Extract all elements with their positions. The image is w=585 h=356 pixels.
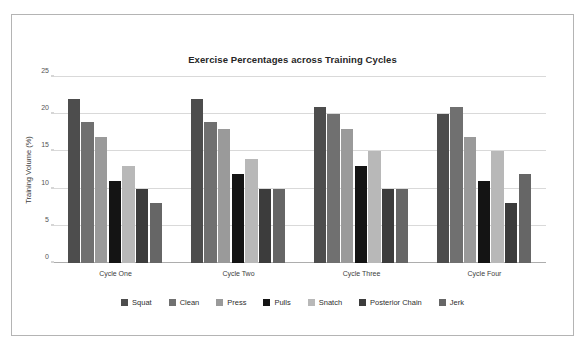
- legend-item[interactable]: Pulls: [263, 298, 290, 307]
- bar: [437, 114, 449, 263]
- legend-swatch: [216, 299, 223, 306]
- y-axis-tick-mark: [51, 150, 54, 151]
- legend-label: Clean: [180, 298, 200, 307]
- bar: [122, 166, 134, 263]
- y-axis-tick-label: 0: [45, 253, 49, 260]
- bar: [191, 99, 203, 263]
- bar: [450, 107, 462, 263]
- y-axis-tick-label: 20: [41, 104, 49, 111]
- bar-group: Cycle Four: [437, 77, 532, 263]
- bar: [382, 189, 394, 263]
- bar: [341, 129, 353, 263]
- legend-swatch: [359, 299, 366, 306]
- bar: [327, 114, 339, 263]
- bar: [150, 203, 162, 263]
- chart-legend: SquatCleanPressPullsSnatchPosterior Chai…: [12, 298, 573, 307]
- legend-label: Squat: [132, 298, 152, 307]
- bar: [491, 151, 503, 263]
- x-axis-group-label: Cycle Four: [468, 270, 502, 277]
- legend-item[interactable]: Clean: [169, 298, 200, 307]
- bar: [259, 189, 271, 263]
- legend-item[interactable]: Jerk: [439, 298, 464, 307]
- bar: [273, 189, 285, 263]
- legend-swatch: [169, 299, 176, 306]
- bar: [505, 203, 517, 263]
- bar: [95, 137, 107, 263]
- y-axis-tick-mark: [51, 187, 54, 188]
- legend-label: Jerk: [450, 298, 464, 307]
- bar: [245, 159, 257, 263]
- y-axis-tick-label: 25: [41, 67, 49, 74]
- bar: [355, 166, 367, 263]
- legend-swatch: [121, 299, 128, 306]
- y-axis-label: Training Volume (%): [24, 136, 33, 204]
- x-axis-group-label: Cycle Two: [222, 270, 254, 277]
- bar: [81, 122, 93, 263]
- bar: [232, 174, 244, 263]
- legend-label: Press: [227, 298, 246, 307]
- bar: [68, 99, 80, 263]
- legend-label: Snatch: [319, 298, 342, 307]
- y-axis-tick-mark: [51, 224, 54, 225]
- legend-item[interactable]: Snatch: [308, 298, 342, 307]
- legend-item[interactable]: Squat: [121, 298, 152, 307]
- bar: [204, 122, 216, 263]
- x-axis-group-label: Cycle Three: [343, 270, 381, 277]
- y-axis-tick-label: 15: [41, 141, 49, 148]
- legend-label: Pulls: [274, 298, 290, 307]
- bar: [464, 137, 476, 263]
- legend-item[interactable]: Posterior Chain: [359, 298, 422, 307]
- plot-area: 0510152025 Cycle OneCycle TwoCycle Three…: [54, 77, 546, 263]
- chart-figure: Exercise Percentages across Training Cyc…: [11, 14, 574, 336]
- bar: [396, 189, 408, 263]
- legend-label: Posterior Chain: [370, 298, 422, 307]
- chart-title: Exercise Percentages across Training Cyc…: [12, 54, 573, 65]
- bar-group: Cycle Two: [191, 77, 286, 263]
- legend-swatch: [263, 299, 270, 306]
- legend-item[interactable]: Press: [216, 298, 246, 307]
- bar: [136, 189, 148, 263]
- bar: [314, 107, 326, 263]
- y-axis-tick-label: 5: [45, 215, 49, 222]
- y-axis-tick-mark: [51, 113, 54, 114]
- bar: [368, 151, 380, 263]
- bar: [478, 181, 490, 263]
- legend-swatch: [439, 299, 446, 306]
- y-axis-tick-label: 10: [41, 178, 49, 185]
- y-axis-tick-mark: [51, 76, 54, 77]
- legend-swatch: [308, 299, 315, 306]
- bar-group: Cycle Three: [314, 77, 409, 263]
- bar-group: Cycle One: [68, 77, 163, 263]
- x-axis-group-label: Cycle One: [99, 270, 132, 277]
- bar: [218, 129, 230, 263]
- bar: [519, 174, 531, 263]
- bar: [109, 181, 121, 263]
